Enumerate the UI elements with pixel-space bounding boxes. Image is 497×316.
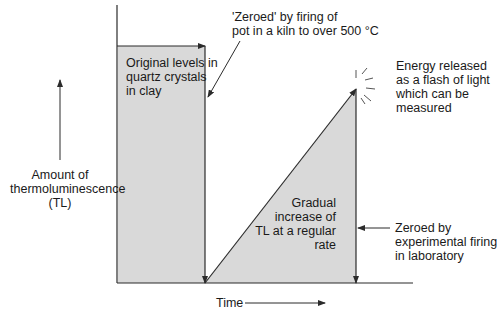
original-line-1: Original levels in	[126, 56, 218, 70]
lab-line-1: Zeroed by	[395, 221, 497, 235]
y-label-line-3: (TL)	[10, 196, 110, 210]
y-label-line-2: thermoluminescence	[10, 182, 110, 196]
gradual-increase-label: Gradual increase of TL at a regular rate	[250, 196, 336, 252]
x-axis-label: Time	[216, 296, 243, 310]
lab-line-2: experimental firing	[395, 235, 497, 249]
zeroed-lab-label: Zeroed by experimental firing in laborat…	[395, 221, 497, 263]
y-axis-label: Amount of thermoluminescence (TL)	[10, 168, 110, 210]
zeroed-kiln-label: 'Zeroed' by firing of pot in a kiln to o…	[232, 10, 379, 38]
lab-line-3: in laboratory	[395, 249, 497, 263]
energy-line-3: which can be	[396, 87, 490, 101]
gradual-line-3: TL at a regular	[250, 224, 336, 238]
gradual-line-4: rate	[250, 238, 336, 252]
original-levels-label: Original levels in quartz crystals in cl…	[126, 56, 218, 98]
original-line-2: quartz crystals	[126, 70, 218, 84]
energy-line-2: as a flash of light	[396, 73, 490, 87]
kiln-line-2: pot in a kiln to over 500 °C	[232, 24, 379, 38]
energy-line-4: measured	[396, 101, 490, 115]
flash-of-light-icon	[356, 68, 375, 104]
original-line-3: in clay	[126, 84, 218, 98]
y-label-line-1: Amount of	[10, 168, 110, 182]
gradual-line-1: Gradual	[250, 196, 336, 210]
energy-line-1: Energy released	[396, 59, 490, 73]
kiln-line-1: 'Zeroed' by firing of	[232, 10, 379, 24]
energy-released-label: Energy released as a flash of light whic…	[396, 59, 490, 115]
gradual-line-2: increase of	[250, 210, 336, 224]
